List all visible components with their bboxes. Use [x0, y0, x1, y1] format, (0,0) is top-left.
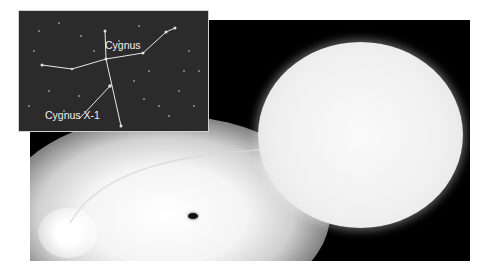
cygnus-label: Cygnus [105, 39, 141, 51]
constellation-inset: Cygnus Cygnus X-1 [18, 10, 209, 132]
cygnus-x1-label: Cygnus X-1 [45, 109, 100, 121]
companion-star [258, 42, 463, 228]
